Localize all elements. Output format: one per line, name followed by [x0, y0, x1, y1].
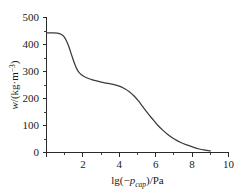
y-tick-label-400: 400	[23, 38, 40, 50]
x-tick-label-10: 10	[223, 158, 235, 170]
y-axis-title-mid: /(kg·m	[8, 72, 21, 102]
x-axis-title-suffix: )/Pa	[146, 174, 164, 187]
x-axis-title-prefix: lg(−	[111, 174, 129, 187]
y-tick-label-500: 500	[23, 11, 40, 23]
y-axis-title: w/(kg·m−3)	[8, 60, 21, 109]
x-tick-label-8: 8	[189, 158, 195, 170]
y-axis-title-suffix: )	[8, 60, 21, 64]
x-axis-tick-labels: 2 4 6 8 10	[80, 158, 234, 170]
x-tick-label-6: 6	[153, 158, 159, 170]
data-series-line	[47, 33, 211, 151]
chart-plot-area: 0 100 200 300 400 500 2 4 6 8 10 lg(−pca…	[0, 0, 244, 192]
x-axis-title-subscript: cap	[135, 180, 146, 189]
y-axis-tick-labels: 0 100 200 300 400 500	[23, 11, 40, 158]
y-tick-label-300: 300	[23, 65, 40, 77]
svg-text:w/(kg·m−3): w/(kg·m−3)	[8, 60, 21, 109]
y-tick-label-200: 200	[23, 92, 40, 104]
chart-figure: 0 100 200 300 400 500 2 4 6 8 10 lg(−pca…	[0, 0, 244, 192]
svg-text:lg(−pcap)/Pa: lg(−pcap)/Pa	[111, 174, 164, 189]
y-tick-label-100: 100	[23, 119, 40, 131]
x-axis-title: lg(−pcap)/Pa	[111, 174, 164, 189]
x-tick-label-4: 4	[117, 158, 123, 170]
x-tick-label-2: 2	[80, 158, 86, 170]
y-tick-label-0: 0	[34, 146, 40, 158]
